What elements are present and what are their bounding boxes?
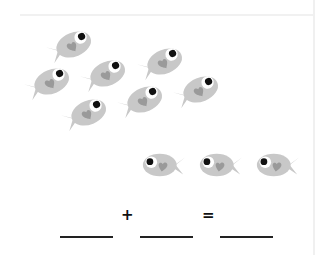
top-divider	[20, 14, 315, 16]
answer-blank-1[interactable]	[60, 236, 113, 238]
fish-icon	[250, 150, 305, 180]
plus-sign: +	[121, 208, 134, 223]
fish-icon	[19, 59, 77, 107]
fish-icon	[56, 90, 114, 138]
answer-blank-2[interactable]	[140, 236, 193, 238]
answer-blank-3[interactable]	[220, 236, 273, 238]
right-divider	[313, 0, 315, 255]
equals-sign: =	[202, 208, 215, 223]
fish-icon	[193, 150, 248, 180]
fish-icon	[136, 150, 191, 180]
fish-icon	[168, 67, 226, 115]
